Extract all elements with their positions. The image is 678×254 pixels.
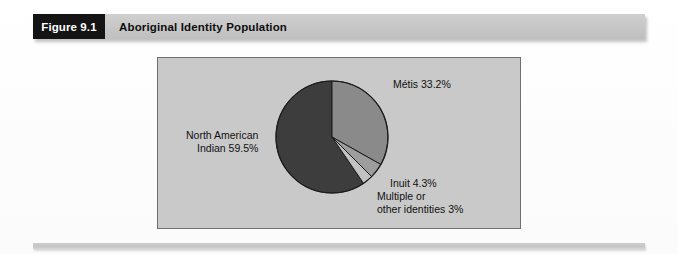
figure-footer-rule <box>33 243 645 249</box>
figure-number-badge: Figure 9.1 <box>33 14 105 39</box>
pie-label-multiple-or-other-identities: Multiple or other identities 3% <box>377 190 463 215</box>
figure-header-band: Figure 9.1 Aboriginal Identity Populatio… <box>33 14 645 39</box>
figure-title: Aboriginal Identity Population <box>119 14 287 39</box>
pie-label-inuit: Inuit 4.3% <box>390 177 437 190</box>
figure-page: Figure 9.1 Aboriginal Identity Populatio… <box>0 0 678 254</box>
figure-number-label: Figure 9.1 <box>41 21 96 33</box>
pie-label-north-american-indian: North American Indian 59.5% <box>186 129 258 154</box>
pie-label-metis: Métis 33.2% <box>393 78 451 91</box>
